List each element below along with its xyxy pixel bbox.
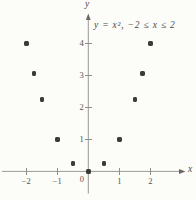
data-point: [32, 71, 37, 76]
y-tick-label: 3: [68, 70, 84, 80]
data-point: [133, 97, 138, 102]
data-point: [40, 97, 45, 102]
y-tick-label: 4: [68, 38, 84, 48]
y-axis-arrow-icon: [86, 14, 91, 21]
axes: [0, 0, 196, 200]
x-tick-label: 1: [109, 176, 129, 186]
data-point: [55, 137, 60, 142]
data-point: [71, 161, 76, 166]
y-tick: [85, 107, 92, 108]
x-tick-label: −1: [47, 176, 67, 186]
x-tick: [26, 168, 27, 175]
x-tick-label: −2: [16, 176, 36, 186]
y-tick: [85, 139, 92, 140]
scatter-plot-figure: y = x², −2 ≤ x ≤ 2 x y 0 −2−1121234: [0, 0, 196, 200]
y-axis-label: y: [85, 0, 89, 9]
y-tick: [85, 75, 92, 76]
x-axis-arrow-icon: [179, 169, 186, 174]
data-point: [117, 137, 122, 142]
data-point: [24, 41, 29, 46]
origin-label: 0: [66, 174, 84, 184]
y-tick-label: 1: [68, 134, 84, 144]
x-axis-label: x: [188, 164, 192, 174]
y-tick: [85, 43, 92, 44]
data-point: [140, 71, 145, 76]
equation-label: y = x², −2 ≤ x ≤ 2: [94, 20, 176, 30]
x-tick: [119, 168, 120, 175]
data-point: [102, 161, 107, 166]
x-tick: [57, 168, 58, 175]
data-point: [86, 169, 91, 174]
data-point: [148, 41, 153, 46]
y-tick-label: 2: [68, 102, 84, 112]
x-tick-label: 2: [140, 176, 160, 186]
x-tick: [150, 168, 151, 175]
